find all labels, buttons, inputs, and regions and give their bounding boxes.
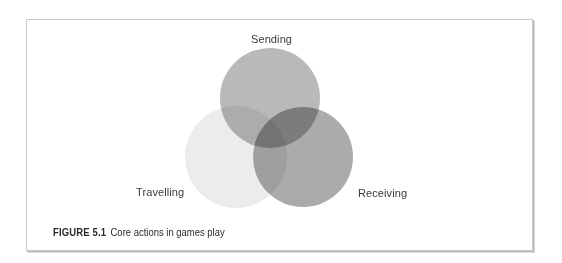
figure-number: FIGURE 5.1	[53, 226, 106, 238]
label-receiving: Receiving	[358, 187, 407, 199]
venn-circle-receiving	[253, 107, 353, 207]
figure-caption-text: Core actions in games play	[111, 226, 225, 238]
label-sending: Sending	[251, 33, 292, 45]
label-travelling: Travelling	[136, 186, 184, 198]
figure-caption: FIGURE 5.1Core actions in games play	[53, 226, 225, 238]
